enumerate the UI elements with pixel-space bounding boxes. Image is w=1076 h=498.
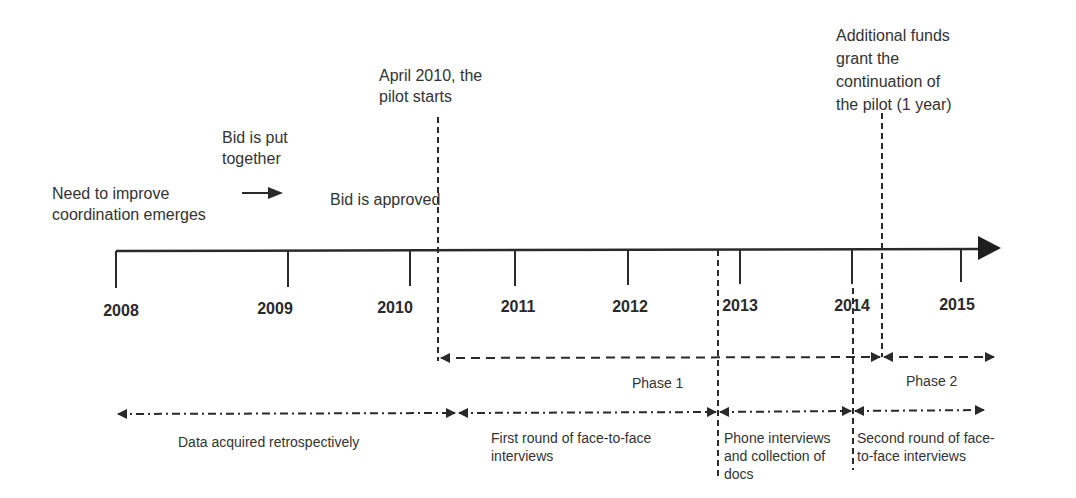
event-bid-approved-label: Bid is approved xyxy=(330,189,440,210)
year-label-2012: 2012 xyxy=(612,298,648,316)
phase1-arrow xyxy=(441,357,880,358)
event-bid-put-together-label: Bid is put together xyxy=(222,127,288,169)
second-round-label: Second round of face- to-face interviews xyxy=(857,429,995,465)
retrospective-label: Data acquired retrospectively xyxy=(178,433,359,451)
timeline-diagram: Need to improve coordination emerges Bid… xyxy=(0,0,1076,498)
year-label-2015: 2015 xyxy=(939,296,975,314)
phase-arrows xyxy=(441,357,994,358)
year-label-2014: 2014 xyxy=(834,297,870,315)
year-label-2009: 2009 xyxy=(257,300,293,318)
year-ticks xyxy=(116,249,961,288)
year-label-2013: 2013 xyxy=(722,297,758,315)
year-label-2010: 2010 xyxy=(377,299,413,317)
first-round-arrow xyxy=(459,412,716,413)
axis-arrowhead-icon xyxy=(978,236,1001,260)
second-round-arrow xyxy=(855,410,984,411)
event-need-label: Need to improve coordination emerges xyxy=(52,183,206,225)
phase1-label: Phase 1 xyxy=(632,375,683,391)
data-collection-arrows xyxy=(118,410,984,414)
year-label-2011: 2011 xyxy=(501,298,536,316)
phone-arrow xyxy=(720,411,851,412)
event-pilot-start-label: April 2010, the pilot starts xyxy=(379,65,482,107)
phone-interviews-label: Phone interviews and collection of docs xyxy=(724,429,831,483)
retrospective-arrow xyxy=(118,413,455,414)
main-axis xyxy=(116,236,1001,260)
bid-arrow-icon xyxy=(242,187,283,199)
event-additional-funds-label: Additional funds grant the continuation … xyxy=(836,24,952,116)
milestone-markers xyxy=(438,113,882,478)
phase2-label: Phase 2 xyxy=(906,373,957,389)
year-label-2008: 2008 xyxy=(103,302,139,320)
first-round-label: First round of face-to-face interviews xyxy=(491,429,651,465)
